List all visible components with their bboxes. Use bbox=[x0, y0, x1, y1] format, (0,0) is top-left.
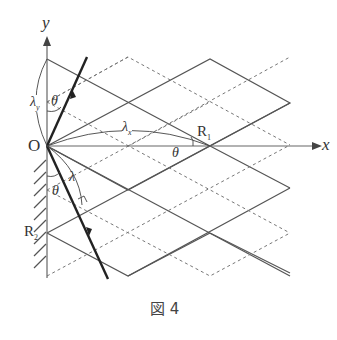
point-r2-label: R2 bbox=[24, 224, 38, 242]
theta-r1-label: θ bbox=[172, 146, 179, 160]
right-angle-mark bbox=[78, 196, 87, 202]
theta-bottom-label: θ bbox=[52, 184, 59, 198]
wave-interference-diagram bbox=[0, 0, 337, 340]
point-r1-label: R1 bbox=[197, 124, 211, 142]
dashed-wavefronts bbox=[47, 57, 290, 276]
theta-r1-arc bbox=[191, 137, 193, 146]
x-axis-label: x bbox=[322, 136, 330, 153]
theta-top-label: θ bbox=[51, 94, 58, 108]
origin-label: O bbox=[28, 137, 40, 154]
lambda-x-label: λx bbox=[122, 120, 132, 137]
y-axis-arrow-icon bbox=[43, 36, 51, 46]
lambda-label: λ bbox=[69, 170, 75, 184]
axes bbox=[47, 42, 316, 278]
incident-ray bbox=[47, 146, 108, 279]
wall-hatching bbox=[34, 160, 46, 268]
figure-caption: 図 4 bbox=[150, 297, 179, 318]
rays bbox=[47, 57, 108, 279]
lambda-y-label: λy bbox=[30, 95, 40, 112]
x-axis-arrow-icon bbox=[312, 142, 322, 150]
y-axis-label: y bbox=[42, 14, 50, 31]
